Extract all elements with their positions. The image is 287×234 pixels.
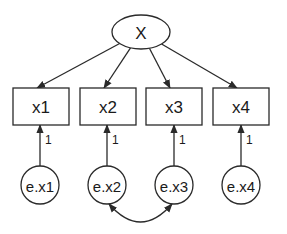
observed-label: x2 (99, 98, 117, 117)
error-node-e.x1[interactable]: e.x1 (21, 166, 59, 204)
observed-node-x3[interactable]: x3 (146, 88, 202, 125)
path-weight-label: 1 (246, 133, 253, 147)
path-weight-label: 1 (45, 133, 52, 147)
loading-arrow-x2 (104, 48, 131, 88)
error-node-e.x2[interactable]: e.x2 (88, 166, 126, 204)
observed-node-x4[interactable]: x4 (213, 88, 269, 125)
error-label: e.x1 (26, 178, 54, 195)
edges-layer: 1111 (37, 44, 253, 222)
observed-node-x1[interactable]: x1 (13, 88, 69, 125)
path-weight-label: 1 (179, 133, 186, 147)
covariance-arrow (109, 204, 172, 222)
observed-label: x1 (32, 98, 50, 117)
observed-node-x2[interactable]: x2 (80, 88, 136, 125)
error-label: e.x2 (93, 178, 121, 195)
path-diagram: 1111 X x1x2x3x4 e.x1e.x2e.x3e.x4 (0, 0, 287, 234)
loading-arrow-x3 (149, 48, 170, 88)
observed-nodes: x1x2x3x4 (13, 88, 269, 125)
error-nodes: e.x1e.x2e.x3e.x4 (21, 166, 260, 204)
loading-arrow-x1 (37, 44, 120, 88)
error-label: e.x3 (160, 178, 188, 195)
loading-arrow-x4 (162, 44, 237, 88)
latent-label: X (135, 24, 146, 43)
path-weight-label: 1 (112, 133, 119, 147)
error-node-e.x3[interactable]: e.x3 (155, 166, 193, 204)
observed-label: x3 (165, 98, 183, 117)
observed-label: x4 (232, 98, 250, 117)
error-node-e.x4[interactable]: e.x4 (222, 166, 260, 204)
latent-node-X[interactable]: X (112, 15, 170, 49)
error-label: e.x4 (227, 178, 255, 195)
